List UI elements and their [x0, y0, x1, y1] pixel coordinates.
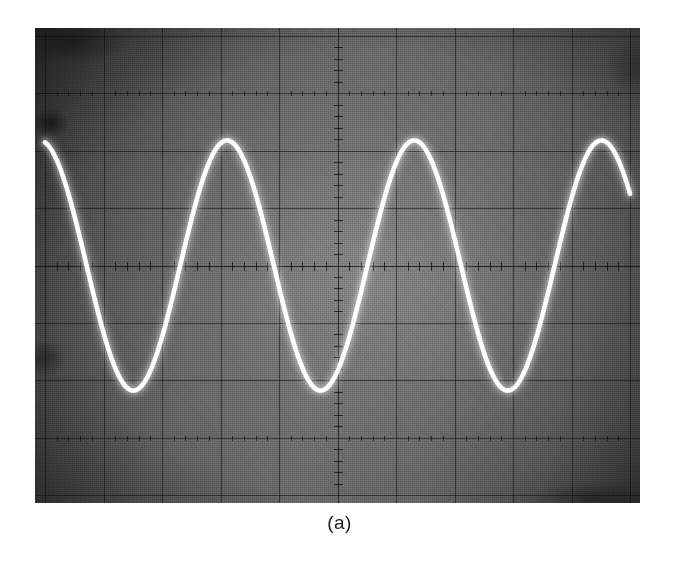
crt-screen-background	[35, 28, 640, 503]
figure-caption: (a)	[0, 512, 679, 534]
oscilloscope-photograph	[35, 28, 640, 503]
figure-panel: (a)	[0, 0, 679, 567]
